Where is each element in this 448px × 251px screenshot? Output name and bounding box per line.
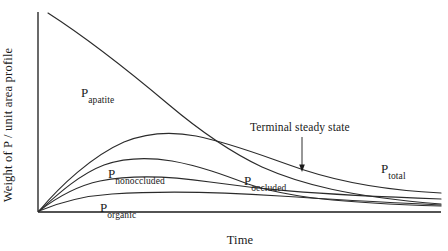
curve-label-subscript: occluded bbox=[251, 183, 286, 193]
curve-label-p-occluded: Poccluded bbox=[244, 174, 286, 191]
curve-label-subscript: apatite bbox=[88, 95, 114, 105]
curve-label-p-nonoccluded: Pnonoccluded bbox=[108, 167, 165, 184]
curve-label-p-organic: Porganic bbox=[100, 201, 136, 218]
curve-label-p-apatite: Papatite bbox=[81, 86, 114, 103]
curve-label-subscript: total bbox=[388, 171, 405, 181]
curve-label-subscript: nonoccluded bbox=[115, 176, 165, 186]
curve-label-p-total: Ptotal bbox=[381, 162, 406, 179]
terminal-steady-state-annotation: Terminal steady state bbox=[250, 121, 350, 133]
phosphorus-fractions-chart: Weight of P / unit area profile Time Pap… bbox=[0, 0, 448, 251]
chart-plot-area bbox=[0, 0, 448, 251]
curve-label-subscript: organic bbox=[107, 210, 136, 220]
x-axis-title: Time bbox=[227, 233, 254, 248]
y-axis-title: Weight of P / unit area profile bbox=[1, 48, 16, 203]
